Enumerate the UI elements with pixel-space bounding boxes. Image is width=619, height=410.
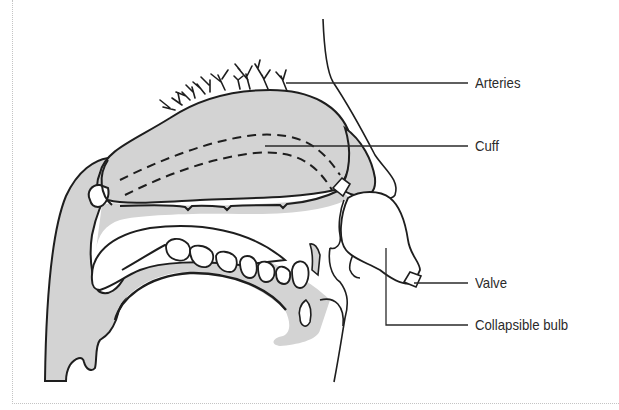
collapsible-bulb [341,192,421,287]
label-cuff: Cuff [475,137,499,155]
label-collapsible-bulb: Collapsible bulb [475,316,568,334]
cuff-shape [89,90,375,210]
label-arteries: Arteries [475,74,520,92]
label-valve: Valve [475,274,507,292]
tongue-and-teeth [92,226,330,346]
